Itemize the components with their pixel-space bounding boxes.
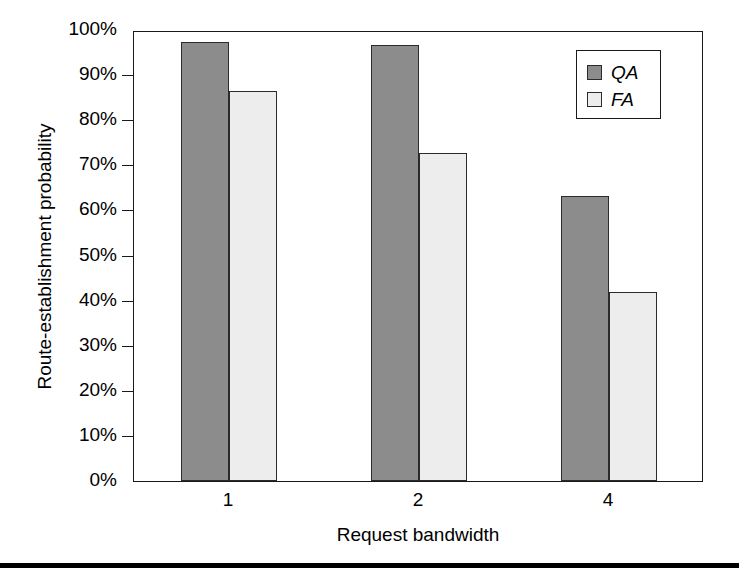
legend-item-fa: FA xyxy=(587,86,660,113)
bar-qa-4 xyxy=(561,196,609,481)
legend-label: FA xyxy=(611,90,634,109)
bar-chart-figure: Route-establishment probability 0%10%20%… xyxy=(0,0,739,583)
y-tick-label: 40% xyxy=(79,289,117,311)
y-tick-label: 0% xyxy=(90,469,117,491)
y-tick-label: 30% xyxy=(79,334,117,356)
legend-swatch-fa xyxy=(587,92,602,107)
x-axis-title: Request bandwidth xyxy=(133,524,703,546)
y-tick-label: 70% xyxy=(79,153,117,175)
y-tick-label: 20% xyxy=(79,379,117,401)
y-tick-mark xyxy=(122,301,133,302)
bottom-rule-divider xyxy=(0,563,739,568)
legend-item-qa: QA xyxy=(587,59,660,86)
y-tick-mark xyxy=(122,256,133,257)
y-tick-label: 60% xyxy=(79,198,117,220)
bar-qa-2 xyxy=(371,45,419,481)
y-axis-title: Route-establishment probability xyxy=(30,31,60,482)
bar-fa-2 xyxy=(419,153,467,481)
y-tick-mark xyxy=(122,165,133,166)
legend-label: QA xyxy=(611,63,638,82)
legend-swatch-qa xyxy=(587,65,602,80)
x-tick-label: 4 xyxy=(603,489,614,511)
bar-fa-4 xyxy=(609,292,657,481)
x-tick-label: 1 xyxy=(223,489,234,511)
x-tick-label: 2 xyxy=(413,489,424,511)
y-tick-mark xyxy=(122,436,133,437)
y-tick-label: 10% xyxy=(79,424,117,446)
y-tick-mark xyxy=(122,75,133,76)
y-tick-label: 90% xyxy=(79,63,117,85)
bar-fa-1 xyxy=(229,91,277,481)
y-tick-label: 50% xyxy=(79,244,117,266)
legend: QAFA xyxy=(576,50,661,119)
bar-qa-1 xyxy=(181,42,229,481)
y-tick-mark xyxy=(122,210,133,211)
y-tick-mark xyxy=(122,391,133,392)
y-tick-label: 100% xyxy=(68,18,117,40)
y-tick-label: 80% xyxy=(79,108,117,130)
y-tick-mark xyxy=(122,120,133,121)
y-tick-mark xyxy=(122,346,133,347)
